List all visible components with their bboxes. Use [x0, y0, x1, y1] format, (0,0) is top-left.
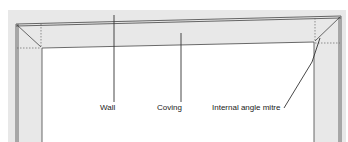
left-wall — [8, 20, 42, 142]
mitre-label: Internal angle mitre — [212, 103, 280, 112]
wall-label: Wall — [100, 103, 115, 112]
coving-diagram — [0, 0, 348, 142]
coving-label: Coving — [157, 103, 182, 112]
